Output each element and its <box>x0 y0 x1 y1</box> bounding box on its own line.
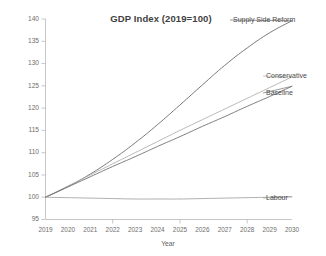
chart-title: GDP Index (2019=100) <box>110 13 211 24</box>
series-label-labour: Labour <box>266 194 288 201</box>
y-tick-group: 95100105110115120125130135140 <box>28 15 46 223</box>
series-annotations: Supply Side ReformConservativeBaselineLa… <box>230 16 307 201</box>
x-tick-label: 2027 <box>218 226 233 233</box>
y-tick-label: 120 <box>28 104 39 111</box>
y-tick-label: 135 <box>28 37 39 44</box>
y-tick-label: 105 <box>28 171 39 178</box>
y-axis: 95100105110115120125130135140 <box>28 15 46 223</box>
series-label-baseline: Baseline <box>266 89 293 96</box>
chart-canvas: GDP Index (2019=100) 9510010511011512012… <box>0 0 326 256</box>
y-tick-label: 95 <box>32 215 40 222</box>
series-label-conservative: Conservative <box>266 72 307 79</box>
x-tick-label: 2029 <box>262 226 277 233</box>
series-label-supply-side-reform: Supply Side Reform <box>233 16 295 24</box>
series-line-supply-side-reform <box>46 21 293 197</box>
series-line-baseline <box>46 86 293 197</box>
y-tick-label: 115 <box>28 126 39 133</box>
x-tick-label: 2022 <box>106 226 121 233</box>
x-axis: 2019202020212022202320242025202620272028… <box>38 220 299 248</box>
x-tick-label: 2023 <box>128 226 143 233</box>
x-tick-label: 2019 <box>38 226 53 233</box>
x-tick-label: 2024 <box>150 226 165 233</box>
series-line-conservative <box>46 77 293 197</box>
x-tick-group: 2019202020212022202320242025202620272028… <box>38 220 299 234</box>
x-axis-title: Year <box>161 240 175 247</box>
gdp-index-line-chart: GDP Index (2019=100) 9510010511011512012… <box>0 0 326 256</box>
series-lines <box>46 21 293 199</box>
y-tick-label: 110 <box>28 148 39 155</box>
y-tick-label: 130 <box>28 59 39 66</box>
x-tick-label: 2021 <box>83 226 98 233</box>
x-tick-label: 2020 <box>61 226 76 233</box>
y-tick-label: 100 <box>28 193 39 200</box>
x-tick-label: 2028 <box>240 226 255 233</box>
x-tick-label: 2025 <box>173 226 188 233</box>
x-tick-label: 2026 <box>195 226 210 233</box>
y-tick-label: 140 <box>28 15 39 22</box>
y-tick-label: 125 <box>28 82 39 89</box>
series-line-labour <box>46 197 293 199</box>
x-tick-label: 2030 <box>285 226 300 233</box>
